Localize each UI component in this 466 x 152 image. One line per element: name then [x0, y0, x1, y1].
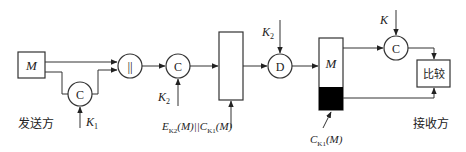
compare-label: 比较 — [423, 67, 445, 81]
concat-node: || — [118, 54, 142, 78]
sender-message-label: M — [25, 58, 38, 73]
diagram-canvas: M C K1 || C K2 发送方 EK2(M)||CK1(M) D K2 — [0, 0, 466, 152]
mac-to-compare-arrow — [408, 48, 434, 59]
concat-label: || — [127, 59, 132, 74]
sender-mac-node: C — [68, 82, 92, 106]
received-mac-block — [319, 87, 343, 110]
mac-pointer-arrow — [323, 112, 331, 128]
decrypt-node: D — [268, 54, 292, 78]
key2-encrypt-label: K2 — [157, 90, 170, 106]
sender-message-box: M — [18, 52, 45, 78]
receiver-label: 接收方 — [413, 116, 449, 131]
channel-label: EK2(M)||CK1(M) — [161, 120, 233, 135]
key2-decrypt-label: K2 — [261, 25, 274, 41]
receiver-mac-node: C — [384, 36, 408, 60]
mac-to-concat-arrow — [92, 70, 117, 94]
encrypt-node: C — [166, 54, 190, 78]
compare-box: 比较 — [417, 60, 450, 87]
received-mac-to-compare-arrow — [343, 88, 434, 98]
receiver-message-box: M — [319, 38, 343, 110]
sender-mac-label: C — [76, 88, 84, 102]
received-mac-label: CK1(M) — [310, 133, 343, 148]
key1-label: K1 — [85, 115, 98, 131]
decrypt-label: D — [276, 60, 285, 74]
receiver-message-label: M — [325, 56, 338, 71]
sender-label: 发送方 — [18, 116, 54, 131]
encrypt-label: C — [174, 60, 182, 74]
receiver-mac-label: C — [392, 42, 400, 56]
key-receiver-label: K — [379, 13, 389, 27]
message-to-mac-line — [45, 72, 68, 94]
channel-box — [219, 32, 243, 100]
